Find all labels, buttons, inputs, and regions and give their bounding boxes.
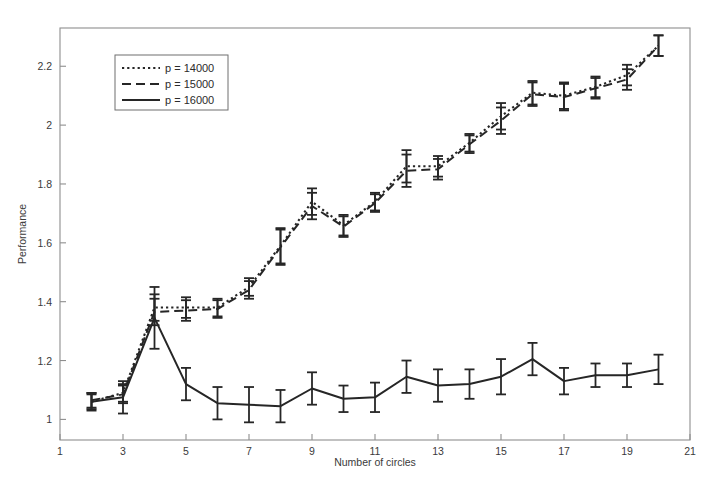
performance-line-chart: 13579111315171921 11.21.41.61.822.2 p = … xyxy=(0,0,719,495)
x-tick-label: 19 xyxy=(621,445,633,457)
error-bar xyxy=(150,287,160,349)
chart-legend: p = 14000p = 15000p = 16000 xyxy=(115,55,228,110)
y-axis-title: Performance xyxy=(16,204,28,264)
y-tick-label: 1.6 xyxy=(37,237,52,249)
x-tick-label: 21 xyxy=(684,445,696,457)
x-axis-ticks: 13579111315171921 xyxy=(57,434,696,457)
error-bar xyxy=(528,343,538,375)
x-tick-label: 5 xyxy=(183,445,189,457)
error-bar xyxy=(465,135,475,153)
y-tick-label: 1.2 xyxy=(37,355,52,367)
error-bar xyxy=(213,300,223,318)
error-bar xyxy=(307,372,317,404)
error-bar xyxy=(339,216,349,237)
error-bar xyxy=(181,368,191,400)
y-tick-label: 2 xyxy=(46,119,52,131)
error-bar xyxy=(654,35,664,56)
y-tick-label: 2.2 xyxy=(37,60,52,72)
x-tick-label: 9 xyxy=(309,445,315,457)
error-bar xyxy=(276,230,286,265)
x-axis-title: Number of circles xyxy=(334,456,416,468)
x-tick-label: 15 xyxy=(495,445,507,457)
error-bar xyxy=(370,194,380,212)
x-tick-label: 7 xyxy=(246,445,252,457)
y-tick-label: 1 xyxy=(46,413,52,425)
legend-label-0: p = 14000 xyxy=(165,62,214,74)
x-tick-label: 1 xyxy=(57,445,63,457)
chart-figure: 13579111315171921 11.21.41.61.822.2 p = … xyxy=(0,0,719,495)
x-tick-label: 17 xyxy=(558,445,570,457)
legend-label-2: p = 16000 xyxy=(165,94,214,106)
legend-label-1: p = 15000 xyxy=(165,78,214,90)
x-tick-label: 13 xyxy=(432,445,444,457)
y-tick-label: 1.8 xyxy=(37,178,52,190)
y-axis-ticks: 11.21.41.61.822.2 xyxy=(37,60,66,425)
y-tick-label: 1.4 xyxy=(37,296,52,308)
x-tick-label: 3 xyxy=(120,445,126,457)
